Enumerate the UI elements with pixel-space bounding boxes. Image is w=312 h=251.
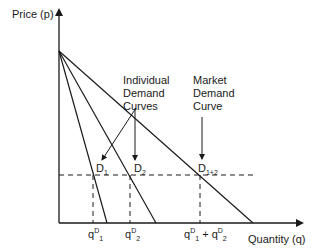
- curve-label-market: D1+2: [198, 162, 218, 176]
- individual-label-line1: Individual: [123, 74, 169, 86]
- x-axis-label: Quantity (q): [248, 233, 305, 245]
- market-label-line3: Curve: [193, 100, 222, 112]
- individual-label-line2: Demand: [123, 87, 165, 99]
- market-label-line1: Market: [193, 74, 227, 86]
- q1-label: qD1: [88, 227, 103, 242]
- q2-label: qD2: [125, 227, 140, 242]
- market-label-line2: Demand: [193, 87, 235, 99]
- individual-label-line3: Curves: [123, 100, 158, 112]
- curve-label-d2: D2: [134, 162, 146, 176]
- demand-diagram: Price (p) Quantity (q) Individual Demand…: [0, 0, 312, 251]
- qsum-label: qD1 + qD2: [184, 227, 227, 242]
- curve-label-d1: D1: [96, 162, 108, 176]
- demand-curve-d1: [59, 51, 107, 223]
- y-axis-label: Price (p): [12, 8, 54, 20]
- individual-arrow-d1: [102, 108, 136, 160]
